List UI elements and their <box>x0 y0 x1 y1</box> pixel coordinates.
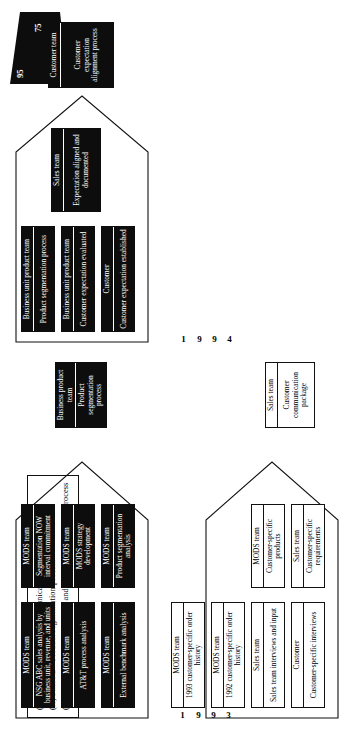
phase-2-mid-2[interactable]: MODS team Segmentation NOW interval comm… <box>21 504 55 588</box>
phase-1-output[interactable]: Sales team Customer communication packag… <box>265 362 315 428</box>
phase-2-mid-1-team: MODS team <box>62 505 74 587</box>
phase-1-input-3-team: MODS team <box>212 603 224 707</box>
phase-2-year-digit-2: 9 <box>196 711 201 720</box>
phase-2-year: 1 9 9 3 <box>175 714 237 719</box>
phase-1-mid-2-team: MODS team <box>252 505 264 587</box>
phase-2-input-1[interactable]: MODS team External benchmark analysis <box>101 602 135 708</box>
phase-3-year: 1 9 9 4 <box>176 338 238 343</box>
phase-2-input-4[interactable]: MODS team Product segmentation analysis <box>101 504 135 588</box>
phase-2-year-digit-1: 1 <box>180 711 185 720</box>
phase-1-output-team: Sales team <box>266 363 278 427</box>
figure-canvas: (X) Phase 1—Customer communication packa… <box>0 0 361 734</box>
phase-3-input-2-team: Business unit product team <box>62 227 74 331</box>
phase-2-input-1-team: MODS team <box>102 603 114 707</box>
phase-2-mid-2-team: MODS team <box>22 505 34 587</box>
phase-3-input-3-value: Product segmentation process <box>34 227 54 331</box>
phase-1-input-1-team: Customer <box>292 603 304 707</box>
phase-1-input-3[interactable]: MODS team 1992 customer-specific order h… <box>211 602 245 708</box>
phase-2-input-3[interactable]: MODS team NSG ABC sales analysis by busi… <box>21 602 55 708</box>
phase-3-output[interactable]: Customer team Customer expectation align… <box>48 22 114 88</box>
phase-3-mid-1-value: Expectation aligned and documented <box>64 129 100 211</box>
phase-3-input-1-team: Customer <box>102 227 114 331</box>
phase-3-year-digit-1: 1 <box>181 335 186 344</box>
phase-1-input-3-value: 1992 customer-specific order history <box>224 603 245 707</box>
phase-1-input-2-value: Sales team interviews and input <box>264 603 284 707</box>
phase-1-input-1-value: Customer-specific interviews <box>304 603 324 707</box>
phase-2-input-2[interactable]: MODS team AT&T process analysis <box>61 602 95 708</box>
phase-3-year-digit-4: 4 <box>228 335 233 344</box>
phase-2-mid-1-value: MODS strategy development <box>74 505 95 587</box>
phase-3-input-2-value: Customer expectation evaluated <box>74 227 94 331</box>
phase-1-mid-2[interactable]: MODS team Customer-specific products <box>251 504 285 588</box>
phase-1-mid-1[interactable]: Sales team Customer-specific requirement… <box>291 504 325 588</box>
phase-1-input-4-value: 1993 customer-specific order history <box>184 603 205 707</box>
phase-2-year-digit-4: 3 <box>227 711 232 720</box>
phase-2-output-value: Product segmentation process <box>76 363 106 427</box>
phase-1-input-1[interactable]: Customer Customer-specific interviews <box>291 602 325 708</box>
phase-1-mid-2-value: Customer-specific products <box>264 505 285 587</box>
phase-2-year-digit-3: 9 <box>211 711 216 720</box>
phase-1-input-2-team: Sales team <box>252 603 264 707</box>
trapezoid-value-1: 95 <box>15 70 25 79</box>
phase-3-year-digit-3: 9 <box>212 335 217 344</box>
phase-2-input-4-team: MODS team <box>102 505 114 587</box>
trapezoid-value-3: 75 <box>33 24 43 33</box>
phase-2-output[interactable]: Business product team Product segmentati… <box>55 362 107 428</box>
phase-2-input-1-value: External benchmark analysis <box>114 603 134 707</box>
phase-3-input-2[interactable]: Business unit product team Customer expe… <box>61 226 95 332</box>
phase-3-input-1[interactable]: Customer Customer expectation establishe… <box>101 226 135 332</box>
phase-2-output-team: Business product team <box>56 363 76 427</box>
phase-3-output-team: Customer team <box>49 23 61 87</box>
phase-1-mid-1-team: Sales team <box>292 505 304 587</box>
phase-3-input-3[interactable]: Business unit product team Product segme… <box>21 226 55 332</box>
phase-2-input-2-value: AT&T process analysis <box>74 603 94 707</box>
phase-1-mid-1-value: Customer-specific requirements <box>304 505 325 587</box>
phase-1-input-4[interactable]: MODS team 1993 customer-specific order h… <box>171 602 205 708</box>
phase-2-mid-1[interactable]: MODS team MODS strategy development <box>61 504 95 588</box>
phase-3-output-value: Customer expectation alignment process <box>61 23 113 87</box>
phase-2-input-3-team: MODS team <box>22 603 34 707</box>
phase-3-input-1-value: Customer expectation established <box>114 227 134 331</box>
phase-2-mid-2-value: Segmentation NOW interval commitment <box>34 505 55 587</box>
phase-3-input-3-team: Business unit product team <box>22 227 34 331</box>
phase-1-output-value: Customer communication package <box>278 363 314 427</box>
phase-1-input-4-team: MODS team <box>172 603 184 707</box>
phase-3-mid-1[interactable]: Sales team Expectation aligned and docum… <box>51 128 101 212</box>
phase-2-input-2-team: MODS team <box>62 603 74 707</box>
phase-2-input-3-value: NSG ABC sales analysis by business unit,… <box>34 603 55 707</box>
phase-3-year-digit-2: 9 <box>197 335 202 344</box>
phase-3-mid-1-team: Sales team <box>52 129 64 211</box>
phase-2-input-4-value: Product segmentation analysis <box>114 505 135 587</box>
phase-1-input-2[interactable]: Sales team Sales team interviews and inp… <box>251 602 285 708</box>
